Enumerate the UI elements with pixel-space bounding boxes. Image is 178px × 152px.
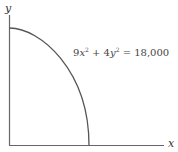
ellipse-curve bbox=[10, 28, 90, 146]
eq-rhs: 18,000 bbox=[134, 47, 169, 58]
diagram-canvas bbox=[0, 0, 178, 152]
x-axis-label: x bbox=[168, 138, 174, 149]
ellipse-equation: 9x2 + 4y2 = 18,000 bbox=[73, 47, 169, 58]
eq-plus: + bbox=[89, 47, 104, 58]
eq-equals: = bbox=[119, 47, 134, 58]
y-axis-label: y bbox=[5, 3, 11, 14]
